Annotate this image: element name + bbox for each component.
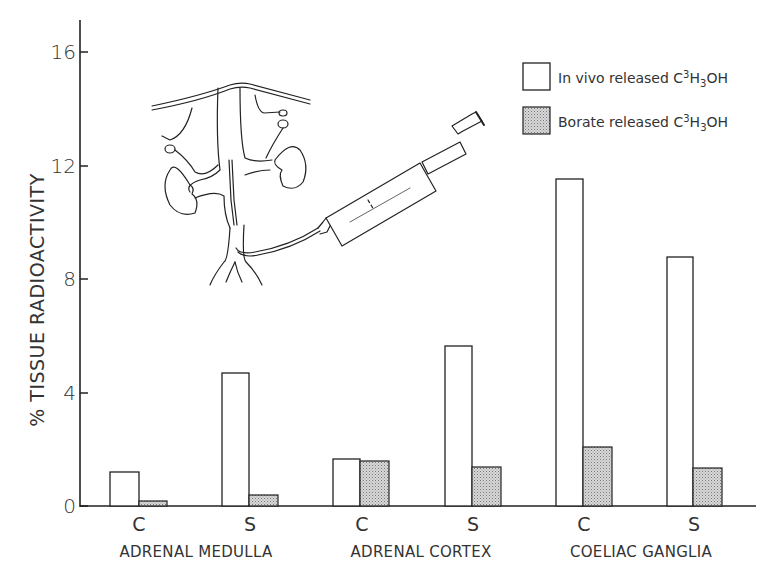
group-adrenal-cortex bbox=[333, 346, 501, 506]
x-label-c: C bbox=[577, 513, 590, 535]
y-tick-4: 4 bbox=[63, 381, 76, 405]
bar-borate-medulla-s bbox=[249, 495, 278, 506]
bar-borate-cortex-s bbox=[472, 467, 501, 506]
syringe-icon bbox=[318, 112, 484, 246]
x-sub-labels: C S C S C S bbox=[132, 513, 700, 535]
bar-chart: 0 4 8 12 16 % TISSUE RADIOACTIVITY C S C… bbox=[0, 0, 774, 571]
catheter-tube-icon bbox=[236, 228, 318, 253]
group-label-adrenal-cortex: ADRENAL CORTEX bbox=[350, 543, 491, 561]
bar-borate-cortex-c bbox=[360, 461, 389, 506]
legend-label-borate: Borate released C3H3OH bbox=[558, 113, 728, 133]
y-tick-12: 12 bbox=[51, 154, 76, 178]
x-label-s: S bbox=[244, 513, 256, 535]
y-axis: 0 4 8 12 16 % TISSUE RADIOACTIVITY bbox=[26, 20, 88, 518]
bar-borate-coeliac-c bbox=[583, 447, 612, 506]
diaphragm-icon bbox=[152, 83, 310, 110]
legend-swatch-borate bbox=[523, 107, 550, 134]
legend: In vivo released C3H3OH Borate released … bbox=[523, 63, 728, 134]
bar-invivo-coeliac-s bbox=[667, 257, 693, 506]
group-adrenal-medulla bbox=[110, 373, 278, 506]
group-label-adrenal-medulla: ADRENAL MEDULLA bbox=[119, 543, 273, 561]
bar-borate-coeliac-s bbox=[693, 468, 722, 506]
x-label-c: C bbox=[132, 513, 145, 535]
x-label-s: S bbox=[688, 513, 700, 535]
bar-invivo-cortex-c bbox=[333, 459, 360, 506]
legend-label-invivo: In vivo released C3H3OH bbox=[558, 69, 728, 89]
x-group-labels: ADRENAL MEDULLA ADRENAL CORTEX COELIAC G… bbox=[119, 543, 712, 561]
group-coeliac-ganglia bbox=[556, 179, 722, 506]
bar-invivo-medulla-s bbox=[222, 373, 249, 506]
y-axis-label: % TISSUE RADIOACTIVITY bbox=[26, 173, 48, 427]
kidney-right-icon bbox=[275, 147, 306, 189]
bar-invivo-cortex-s bbox=[445, 346, 472, 506]
group-label-coeliac-ganglia: COELIAC GANGLIA bbox=[570, 543, 712, 561]
y-tick-16: 16 bbox=[51, 40, 76, 64]
y-tick-0: 0 bbox=[63, 494, 76, 518]
bar-invivo-coeliac-c bbox=[556, 179, 583, 506]
bar-invivo-medulla-c bbox=[110, 472, 139, 506]
y-tick-8: 8 bbox=[63, 267, 76, 291]
adrenal-glands-icon bbox=[162, 95, 288, 174]
bar-borate-medulla-c bbox=[139, 501, 167, 506]
x-label-s: S bbox=[467, 513, 479, 535]
x-label-c: C bbox=[355, 513, 368, 535]
anatomy-syringe-illustration bbox=[152, 83, 484, 285]
kidney-left-icon bbox=[165, 167, 197, 214]
legend-swatch-invivo bbox=[523, 63, 550, 90]
aorta-icon bbox=[189, 88, 272, 285]
